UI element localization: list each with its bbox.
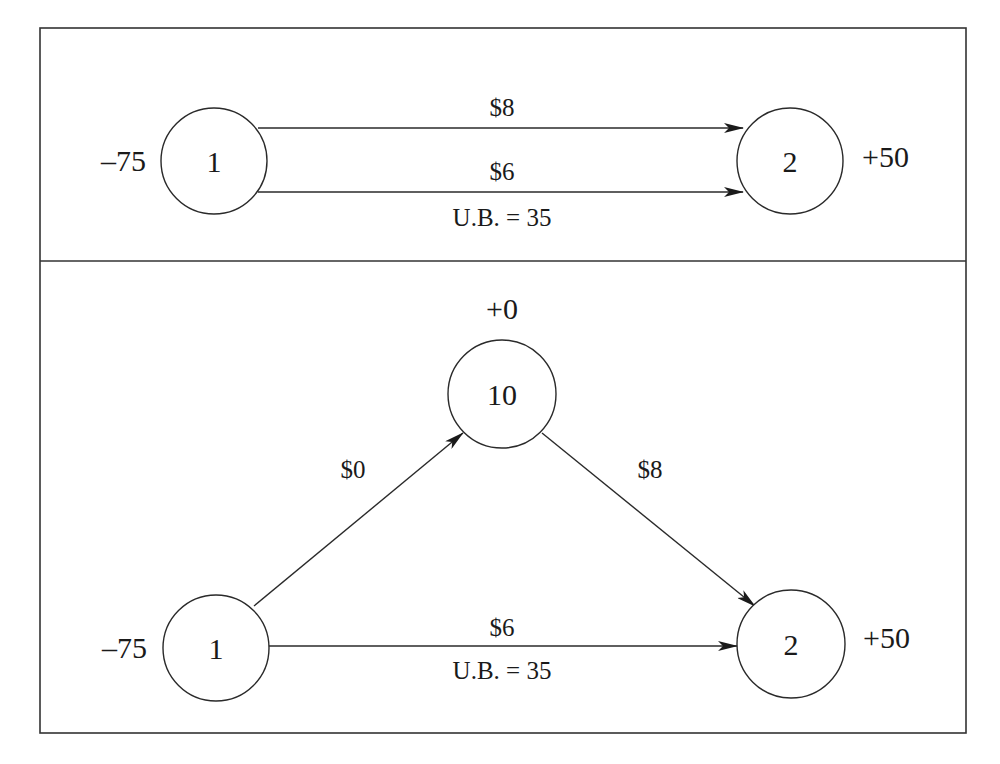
bottom-node-2: 2 (737, 590, 845, 698)
bottom-node-10-supply: +0 (486, 292, 518, 325)
top-edge-lower-cost: $6 (490, 158, 515, 185)
top-node-2-supply: +50 (862, 140, 909, 173)
top-node-2-label: 2 (783, 145, 798, 178)
bottom-node-1-supply: –75 (101, 631, 147, 664)
bottom-node-1-label: 1 (209, 632, 224, 665)
bottom-node-1: 1 (163, 595, 269, 701)
top-edge-lower-bound: U.B. = 35 (453, 204, 552, 231)
top-node-1-label: 1 (207, 145, 222, 178)
top-node-1: 1 (161, 108, 267, 214)
bottom-panel: $0 $8 $6 U.B. = 35 1 –75 10 +0 2 +50 (101, 292, 910, 701)
bottom-edge-1-2-bound: U.B. = 35 (453, 657, 552, 684)
bottom-edge-1-2-cost: $6 (490, 614, 515, 641)
top-edge-upper-cost: $8 (490, 94, 515, 121)
network-flow-diagram: $8 $6 U.B. = 35 1 –75 2 +50 $0 $8 $6 U.B… (0, 0, 1000, 764)
bottom-node-10: 10 (448, 340, 556, 448)
bottom-node-2-supply: +50 (863, 621, 910, 654)
bottom-node-2-label: 2 (784, 628, 799, 661)
bottom-edge-10-2-cost: $8 (638, 456, 663, 483)
top-node-1-supply: –75 (100, 144, 146, 177)
top-node-2: 2 (737, 108, 843, 214)
bottom-node-10-label: 10 (487, 378, 517, 411)
bottom-edge-1-10-cost: $0 (341, 456, 366, 483)
top-panel: $8 $6 U.B. = 35 1 –75 2 +50 (100, 94, 909, 231)
